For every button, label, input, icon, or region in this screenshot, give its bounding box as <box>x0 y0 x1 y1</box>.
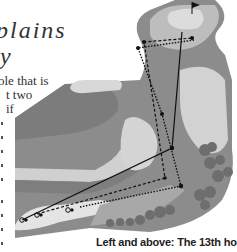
figure-caption: Left and above: The 13th hole <box>96 236 237 248</box>
golf-hole-map <box>0 0 237 252</box>
putting-green <box>167 8 203 29</box>
